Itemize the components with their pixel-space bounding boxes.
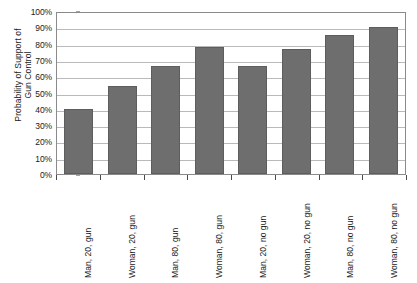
x-label-slot: Man, 20, gun xyxy=(56,182,100,280)
y-axis-tick-label: 30% xyxy=(35,121,52,131)
x-label-slot: Woman, 20, gun xyxy=(100,182,144,280)
bar-slot xyxy=(144,13,188,174)
x-axis-tick-mark xyxy=(144,175,145,180)
y-axis-tick-label: 60% xyxy=(35,72,52,82)
bar xyxy=(369,27,398,174)
bar-slot xyxy=(231,13,275,174)
y-axis-tick-label: 0% xyxy=(40,170,52,180)
y-axis-tick-label: 70% xyxy=(35,56,52,66)
x-axis-tick-mark xyxy=(406,175,407,180)
bar-slot xyxy=(275,13,319,174)
bar-slot xyxy=(188,13,232,174)
y-axis-tick-label: 20% xyxy=(35,137,52,147)
bar-slot xyxy=(318,13,362,174)
x-axis-tick-mark xyxy=(275,175,276,180)
x-axis-tick-label: Man, 80, gun xyxy=(169,182,182,278)
x-axis-tick-labels: Man, 20, gunWoman, 20, gunMan, 80, gunWo… xyxy=(56,182,406,280)
y-axis-tick-label: 90% xyxy=(35,23,52,33)
bar-slot xyxy=(101,13,145,174)
x-axis-tick-mark xyxy=(319,175,320,180)
y-axis-tick-label: 50% xyxy=(35,89,52,99)
x-axis-tick-mark xyxy=(231,175,232,180)
bar xyxy=(238,66,267,174)
bar xyxy=(108,86,137,174)
x-axis-tick-mark xyxy=(187,175,188,180)
x-axis-tick-mark xyxy=(56,175,57,180)
x-label-slot: Man, 80, gun xyxy=(144,182,188,280)
y-axis-tick-label: 40% xyxy=(35,105,52,115)
x-label-slot: Man, 80, no gun xyxy=(319,182,363,280)
bar xyxy=(325,35,354,174)
plot-area xyxy=(56,12,406,175)
bar xyxy=(64,109,93,174)
y-axis-tick-label: 10% xyxy=(35,154,52,164)
x-axis-tick-label: Woman, 20, no gun xyxy=(301,182,314,278)
x-axis-tick-label: Woman, 80, gun xyxy=(213,182,226,278)
bar xyxy=(151,66,180,174)
y-axis-tick-label: 100% xyxy=(31,7,52,17)
x-axis-tick-label: Man, 80, no gun xyxy=(344,182,357,278)
x-label-slot: Woman, 80, no gun xyxy=(362,182,406,280)
x-axis-tick-mark xyxy=(362,175,363,180)
x-axis-tick-marks xyxy=(56,175,406,180)
bar-slot xyxy=(362,13,406,174)
x-label-slot: Woman, 20, no gun xyxy=(275,182,319,280)
x-axis-tick-label: Man, 20, no gun xyxy=(257,182,270,278)
x-label-slot: Woman, 80, gun xyxy=(187,182,231,280)
bar xyxy=(282,49,311,175)
x-axis-tick-mark xyxy=(100,175,101,180)
bar xyxy=(195,47,224,174)
x-axis-tick-label: Man, 20, gun xyxy=(82,182,95,278)
y-axis-tick-label: 80% xyxy=(35,40,52,50)
bar-series xyxy=(57,13,405,174)
bar-chart-figure: Probability of Support of Gun Control 0%… xyxy=(0,0,417,283)
y-axis-tick-labels: 0%10%20%30%40%50%60%70%80%90%100% xyxy=(24,12,52,175)
x-axis-tick-label: Woman, 20, gun xyxy=(126,182,139,278)
x-label-slot: Man, 20, no gun xyxy=(231,182,275,280)
bar-slot xyxy=(57,13,101,174)
x-axis-tick-label: Woman, 80, no gun xyxy=(388,182,401,278)
